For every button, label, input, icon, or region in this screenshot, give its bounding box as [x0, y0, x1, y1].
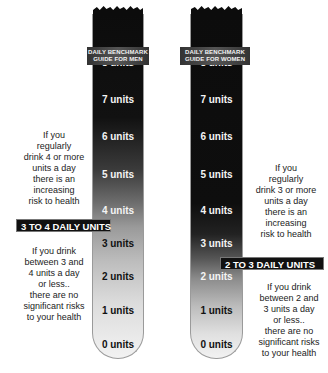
- note-line: drink 3 or more: [245, 185, 327, 196]
- men-unit-6: 6 units: [93, 131, 143, 142]
- women-unit-1: 1 units: [191, 305, 242, 316]
- note-line: increasing: [245, 218, 327, 229]
- men-unit-2: 2 units: [93, 271, 143, 282]
- note-line: significant risks: [250, 337, 328, 348]
- note-line: If you drink: [8, 246, 100, 257]
- note-line: 3 units a day: [250, 304, 328, 315]
- women-unit-0: 0 units: [191, 339, 242, 350]
- men-guide-header: DAILY BENCHMARK GUIDE FOR MEN: [87, 47, 149, 65]
- men-unit-5: 5 units: [93, 169, 143, 180]
- note-line: risk to health: [245, 229, 327, 240]
- women-benchmark-tube: 8 units 7 units 6 units 5 units 4 units …: [190, 14, 243, 359]
- men-unit-4: 4 units: [93, 205, 143, 216]
- note-line: If you: [8, 130, 100, 141]
- men-risk-warning: If you regularly drink 4 or more units a…: [8, 130, 100, 207]
- men-safe-note: If you drink between 3 and 4 units a day…: [8, 246, 100, 323]
- women-unit-2: 2 units: [191, 271, 242, 282]
- women-risk-warning: If you regularly drink 3 or more units a…: [245, 163, 327, 240]
- men-unit-1: 1 units: [93, 305, 143, 316]
- note-line: increasing: [8, 185, 100, 196]
- note-line: to your health: [8, 312, 100, 323]
- women-unit-7: 7 units: [191, 94, 242, 105]
- women-safe-note: If you drink between 2 and 3 units a day…: [250, 282, 328, 359]
- men-unit-3: 3 units: [93, 238, 143, 249]
- note-line: between 2 and: [250, 293, 328, 304]
- note-line: regularly: [8, 141, 100, 152]
- note-line: risk to health: [8, 196, 100, 207]
- men-unit-0: 0 units: [93, 339, 143, 350]
- men-guide-line2: GUIDE FOR MEN: [87, 56, 149, 63]
- women-unit-4: 4 units: [191, 205, 242, 216]
- note-line: drink 4 or more: [8, 152, 100, 163]
- note-line: 4 units a day: [8, 268, 100, 279]
- women-unit-3: 3 units: [191, 238, 242, 249]
- note-line: there are no: [250, 326, 328, 337]
- note-line: If you drink: [250, 282, 328, 293]
- jagged-top-edge: [93, 6, 143, 16]
- note-line: there is an: [245, 207, 327, 218]
- women-unit-6: 6 units: [191, 131, 242, 142]
- note-line: or less..: [250, 315, 328, 326]
- note-line: to your health: [250, 348, 328, 359]
- note-line: If you: [245, 163, 327, 174]
- women-guide-line1: DAILY BENCHMARK: [180, 49, 250, 56]
- note-line: or less..: [8, 279, 100, 290]
- note-line: there are no: [8, 290, 100, 301]
- men-guide-line1: DAILY BENCHMARK: [87, 49, 149, 56]
- note-line: significant risks: [8, 301, 100, 312]
- note-line: there is an: [8, 174, 100, 185]
- women-guide-line2: GUIDE FOR WOMEN: [180, 56, 250, 63]
- men-unit-7: 7 units: [93, 94, 143, 105]
- women-unit-5: 5 units: [191, 169, 242, 180]
- women-guide-header: DAILY BENCHMARK GUIDE FOR WOMEN: [180, 47, 250, 65]
- women-daily-units-band: 2 TO 3 DAILY UNITS: [220, 257, 324, 270]
- note-line: regularly: [245, 174, 327, 185]
- men-daily-units-band: 3 TO 4 DAILY UNITS: [16, 219, 111, 232]
- jagged-top-edge: [191, 6, 242, 16]
- note-line: units a day: [8, 163, 100, 174]
- note-line: between 3 and: [8, 257, 100, 268]
- note-line: units a day: [245, 196, 327, 207]
